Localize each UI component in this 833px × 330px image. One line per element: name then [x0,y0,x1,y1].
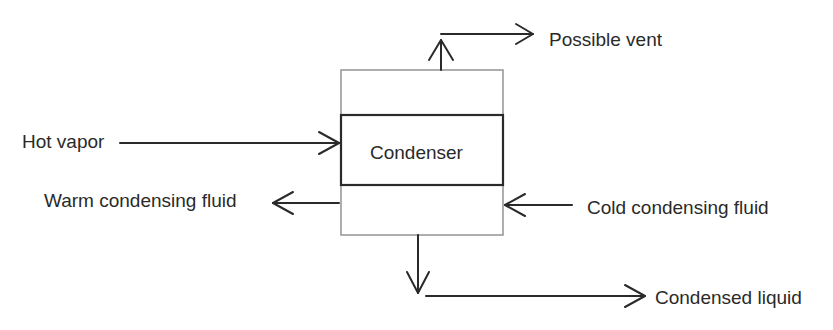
warm-fluid-arrow [273,192,339,214]
cold-fluid-arrow [505,194,572,216]
warm-condensing-fluid-label: Warm condensing fluid [44,191,237,210]
condensed-liquid-arrow [407,235,645,307]
vent-arrow [429,24,533,70]
condensed-liquid-label: Condensed liquid [655,288,802,307]
possible-vent-label: Possible vent [549,30,662,49]
hot-vapor-label: Hot vapor [22,132,104,151]
condenser-diagram: Condenser Possible vent Hot vapor Warm c… [0,0,833,330]
hot-vapor-arrow [120,132,339,154]
condenser-label: Condenser [370,143,463,162]
diagram-lines [0,0,833,330]
cold-condensing-fluid-label: Cold condensing fluid [587,198,769,217]
